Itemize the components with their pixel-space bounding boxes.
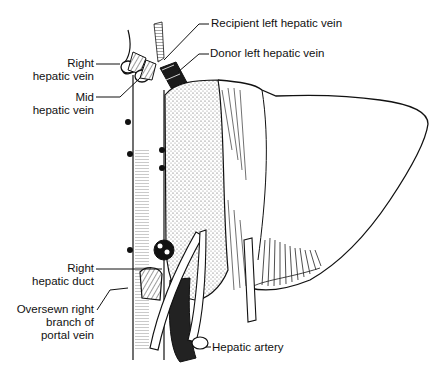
recipient-left-hepatic-vein-shape: [154, 22, 164, 62]
liver-cut-surface: [165, 80, 228, 300]
label-donor-left-hepatic-vein: Donor left hepatic vein: [210, 47, 324, 60]
label-oversewn-right-portal-branch: Oversewn right branch of portal vein: [17, 303, 94, 342]
label-hepatic-artery: Hepatic artery: [212, 341, 284, 354]
falciform-ligament: [244, 238, 256, 322]
label-recipient-left-hepatic-vein: Recipient left hepatic vein: [211, 17, 342, 30]
right-hepatic-vein-stump: [121, 30, 146, 74]
oversewn-portal-branch-shape: [140, 268, 162, 300]
liver-diagram: Recipient left hepatic vein Donor left h…: [0, 0, 446, 382]
right-hepatic-duct-shape: [154, 240, 174, 260]
label-right-hepatic-vein: Right hepatic vein: [33, 57, 94, 83]
label-right-hepatic-duct: Right hepatic duct: [32, 262, 94, 288]
label-mid-hepatic-vein: Mid hepatic vein: [33, 91, 94, 117]
